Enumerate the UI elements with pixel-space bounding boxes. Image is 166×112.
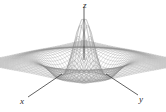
axis-label-z: z xyxy=(83,1,87,10)
surface-plot-figure: z x y xyxy=(0,0,166,112)
axis-label-y: y xyxy=(139,95,143,104)
axis-label-x: x xyxy=(20,97,24,106)
